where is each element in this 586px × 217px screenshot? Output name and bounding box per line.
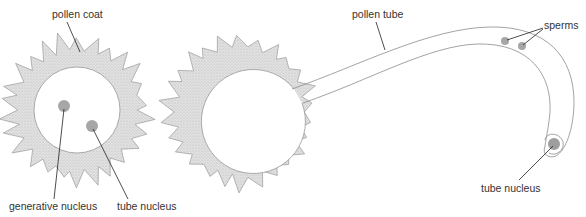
pollen-tube [292,27,574,157]
leader-tube-nucleus-tip [519,146,553,180]
pollen-grain-2 [159,35,315,193]
sperm-cell-1 [501,37,509,45]
pollen-tube-inner-wall [303,44,550,146]
tube-nucleus-tip [548,138,560,150]
grain-1-cytoplasm [34,67,120,153]
label-tube-nucleus-tip: tube nucleus [481,183,541,194]
tube-nucleus-grain [86,120,98,132]
label-tube-nucleus-grain: tube nucleus [117,201,177,212]
pollen-grain-1 [0,33,155,188]
leader-sperm-1 [507,28,543,40]
leader-pollen-tube [376,22,385,50]
label-pollen-coat: pollen coat [52,9,103,20]
grain-2-cytoplasm [201,69,305,173]
label-sperms: sperms [544,20,578,31]
label-generative-nucleus: generative nucleus [9,201,97,212]
label-pollen-tube: pollen tube [352,9,403,20]
